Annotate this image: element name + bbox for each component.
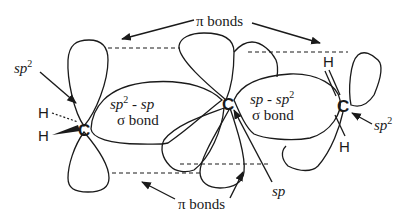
arrow-pi-bottom-right	[230, 172, 243, 198]
arrow-pi-bottom-left	[142, 182, 175, 199]
center-c-p-orbital-bottom-left	[162, 108, 224, 172]
left-c-p-orbital-top	[68, 40, 108, 126]
label-sp2-right: sp2	[374, 115, 392, 133]
atom-h-left-top: H	[38, 104, 49, 121]
atom-c-center: C	[222, 95, 234, 114]
label-sigma-left-bond: σ bond	[117, 112, 159, 128]
label-sigma-right-hybrid: sp - sp2	[250, 89, 294, 107]
label-sigma-right-bond: σ bond	[252, 107, 294, 123]
left-c-h-wedge-bond	[52, 125, 80, 135]
center-c-p-orbital-top-right	[234, 42, 278, 77]
label-pi-bonds-top: π bonds	[196, 13, 243, 29]
arrow-pi-top-right	[252, 23, 320, 43]
label-sp-center: sp	[272, 183, 286, 199]
atom-h-left-bottom: H	[38, 127, 49, 144]
allene-orbital-diagram: C C C H H H H π bonds π bonds sp2 sp2 sp…	[0, 0, 400, 221]
atom-h-right-bottom: H	[339, 138, 350, 155]
label-sp2-left: sp2	[14, 58, 32, 76]
atom-h-right-top: H	[323, 53, 334, 70]
right-c-p-orbital	[350, 53, 381, 106]
atom-c-right: C	[337, 97, 349, 116]
atom-c-left: C	[78, 121, 90, 140]
left-c-h-dashed-bond	[52, 113, 78, 122]
left-c-p-orbital-bottom	[68, 132, 109, 192]
label-sigma-left-hybrid: sp2 - sp	[110, 94, 155, 112]
arrow-pi-top-left	[122, 20, 194, 39]
arrow-sp2-right	[352, 113, 372, 124]
label-pi-bonds-bottom: π bonds	[178, 196, 225, 212]
